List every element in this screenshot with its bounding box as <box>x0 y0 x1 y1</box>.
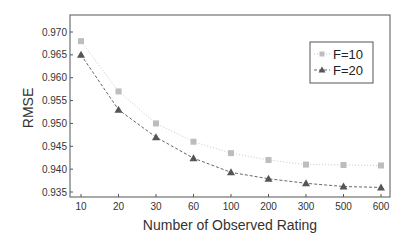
x-tick-label: 20 <box>113 201 125 212</box>
y-tick-label: 0.965 <box>42 49 67 60</box>
x-tick-label: 600 <box>373 201 390 212</box>
square-marker-icon <box>228 150 234 156</box>
y-tick-label: 0.955 <box>42 95 67 106</box>
x-axis-title: Number of Observed Rating <box>143 217 317 233</box>
square-marker-icon <box>341 162 347 168</box>
square-marker-icon <box>78 38 84 44</box>
square-marker-icon <box>116 88 122 94</box>
x-tick-label: 100 <box>223 201 240 212</box>
square-marker-icon <box>153 120 159 126</box>
square-marker-icon <box>191 139 197 145</box>
x-tick-label: 200 <box>260 201 277 212</box>
square-marker-icon <box>378 162 384 168</box>
legend-label-f20: F=20 <box>333 63 363 78</box>
x-tick-label: 10 <box>75 201 87 212</box>
x-tick-label: 300 <box>298 201 315 212</box>
x-tick-label: 30 <box>150 201 162 212</box>
square-marker-icon <box>303 162 309 168</box>
rmse-line-chart: 0.9350.9400.9450.9500.9550.9600.9650.970… <box>0 0 415 242</box>
y-axis-ticks: 0.9350.9400.9450.9500.9550.9600.9650.970 <box>42 27 73 198</box>
legend-square-icon <box>320 52 325 57</box>
square-marker-icon <box>266 157 272 163</box>
x-tick-label: 500 <box>335 201 352 212</box>
y-axis-title: RMSE <box>20 88 36 128</box>
legend-label-f10: F=10 <box>333 47 363 62</box>
legend: F=10 F=20 <box>310 42 373 83</box>
y-tick-label: 0.960 <box>42 72 67 83</box>
y-tick-label: 0.950 <box>42 118 67 129</box>
x-tick-label: 60 <box>188 201 200 212</box>
y-tick-label: 0.935 <box>42 187 67 198</box>
y-tick-label: 0.970 <box>42 27 67 38</box>
y-tick-label: 0.940 <box>42 164 67 175</box>
y-tick-label: 0.945 <box>42 141 67 152</box>
